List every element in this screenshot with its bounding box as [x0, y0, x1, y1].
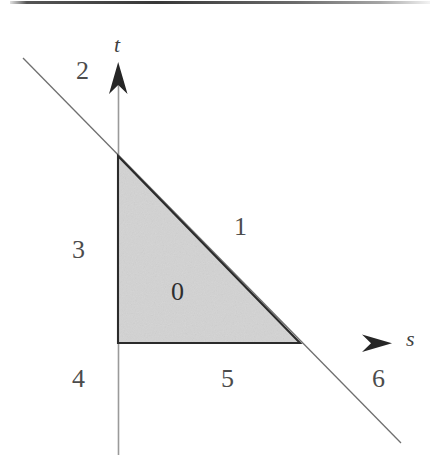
shaded-triangle	[118, 156, 300, 343]
diagram-canvas	[0, 0, 446, 474]
axis-label-s: s	[406, 328, 415, 350]
region-label-5: 5	[221, 366, 234, 392]
region-label-3: 3	[72, 237, 85, 263]
region-label-6: 6	[372, 366, 385, 392]
region-label-4: 4	[72, 366, 85, 392]
region-label-0: 0	[171, 279, 184, 305]
region-label-2: 2	[76, 58, 89, 84]
region-label-1: 1	[234, 214, 247, 240]
axis-label-t: t	[114, 34, 120, 56]
geometry-figure: t s 2 3 4 5 6 1 0	[0, 0, 446, 474]
